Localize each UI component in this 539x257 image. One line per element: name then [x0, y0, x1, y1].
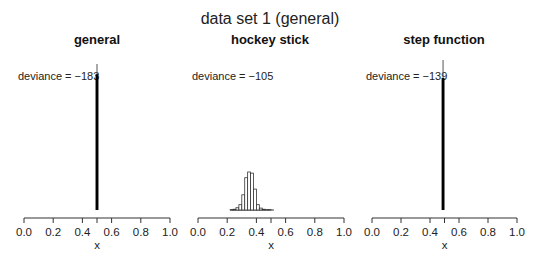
x-tick-label: 0.2 [219, 226, 235, 238]
panel-step-function: step function deviance = −139 0.00.20.40… [364, 32, 525, 251]
x-axis-label: x [94, 239, 100, 251]
x-axis: 0.00.20.40.60.81.0x [16, 218, 178, 251]
figure-title: data set 1 (general) [201, 10, 340, 27]
histogram [442, 60, 445, 210]
x-axis: 0.00.20.40.60.81.0x [190, 218, 352, 251]
panel-title: general [74, 32, 120, 47]
histogram-bar [248, 172, 251, 210]
x-tick-label: 0.0 [16, 226, 32, 238]
histogram [96, 64, 99, 210]
panel-hockey-stick: hockey stick deviance = −105 0.00.20.40.… [190, 32, 352, 251]
x-tick-label: 0.0 [364, 226, 380, 238]
histogram-bar [262, 209, 265, 210]
x-tick-label: 0.6 [278, 226, 294, 238]
panel-title: step function [403, 32, 485, 47]
x-axis-label: x [268, 239, 274, 251]
histogram-bar [96, 74, 99, 210]
x-tick-label: 0.6 [451, 226, 467, 238]
histogram-bar [233, 209, 236, 210]
histogram-bar [256, 205, 259, 210]
histogram [230, 172, 274, 210]
x-tick-label: 0.8 [133, 226, 149, 238]
x-tick-label: 1.0 [509, 226, 525, 238]
figure: data set 1 (general) general deviance = … [0, 0, 539, 257]
x-tick-label: 1.0 [162, 226, 178, 238]
deviance-label: deviance = −183 [18, 70, 99, 82]
histogram-bar [253, 189, 256, 210]
x-tick-label: 1.0 [336, 226, 352, 238]
deviance-label: deviance = −105 [192, 70, 273, 82]
x-tick-label: 0.2 [393, 226, 409, 238]
x-tick-label: 0.6 [104, 226, 120, 238]
histogram-bar [236, 208, 239, 210]
histogram-bar [245, 178, 248, 210]
x-tick-label: 0.4 [248, 226, 265, 238]
x-tick-label: 0.4 [74, 226, 91, 238]
x-axis: 0.00.20.40.60.81.0x [364, 218, 525, 251]
x-tick-label: 0.8 [307, 226, 323, 238]
deviance-label: deviance = −139 [366, 70, 447, 82]
x-axis-label: x [442, 239, 448, 251]
panel-title: hockey stick [231, 32, 310, 47]
x-tick-label: 0.4 [422, 226, 439, 238]
x-tick-label: 0.8 [480, 226, 496, 238]
histogram-bar [239, 205, 242, 210]
x-tick-label: 0.2 [45, 226, 61, 238]
x-tick-label: 0.0 [190, 226, 206, 238]
histogram-bar [259, 208, 262, 210]
histogram-bar [442, 78, 445, 210]
histogram-bar [251, 173, 254, 210]
histogram-bar [242, 195, 245, 210]
panel-general: general deviance = −183 0.00.20.40.60.81… [16, 32, 178, 251]
